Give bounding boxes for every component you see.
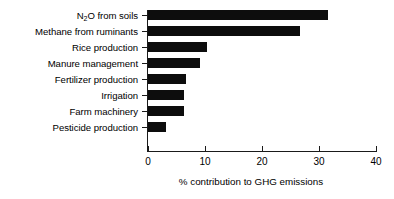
- plot-area: [148, 10, 376, 152]
- x-axis-label-20: 20: [247, 156, 277, 167]
- bar-pesticide-production: [148, 122, 166, 132]
- category-label-methane-from-ruminants: Methane from ruminants: [0, 27, 138, 37]
- bar-farm-machinery: [148, 106, 184, 116]
- category-label-text-post: O from soils: [87, 10, 138, 21]
- category-label-rice-production: Rice production: [0, 43, 138, 53]
- x-axis-tick-40: [376, 146, 377, 152]
- bar-n2o-from-soils: [148, 10, 328, 20]
- bar-fertilizer-production: [148, 74, 186, 84]
- category-label-manure-management: Manure management: [0, 59, 138, 69]
- x-axis-tick-20: [262, 146, 263, 152]
- category-label-fertilizer-production: Fertilizer production: [0, 75, 138, 85]
- x-axis-tick-0: [148, 146, 149, 152]
- category-label-pesticide-production: Pesticide production: [0, 123, 138, 133]
- category-label-farm-machinery: Farm machinery: [0, 107, 138, 117]
- x-axis-tick-10: [205, 146, 206, 152]
- category-label-text-pre: N: [77, 10, 84, 21]
- bar-irrigation: [148, 90, 184, 100]
- category-axis-labels: N2O from soils Methane from ruminants Ri…: [0, 0, 138, 150]
- bar-manure-management: [148, 58, 200, 68]
- x-axis-tick-30: [319, 146, 320, 152]
- x-axis-label-0: 0: [133, 156, 163, 167]
- bar-rice-production: [148, 42, 207, 52]
- bar-methane-from-ruminants: [148, 26, 300, 36]
- x-axis-label-10: 10: [190, 156, 220, 167]
- x-axis-label-40: 40: [361, 156, 391, 167]
- x-axis-label-30: 30: [304, 156, 334, 167]
- x-axis-title: % contribution to GHG emissions: [0, 176, 394, 188]
- category-label-n2o-from-soils: N2O from soils: [0, 11, 138, 22]
- x-axis-title-text: % contribution to GHG emissions: [71, 176, 323, 188]
- ghg-emissions-bar-chart: N2O from soils Methane from ruminants Ri…: [0, 0, 394, 199]
- category-label-irrigation: Irrigation: [0, 91, 138, 101]
- subscript-2: 2: [84, 15, 88, 22]
